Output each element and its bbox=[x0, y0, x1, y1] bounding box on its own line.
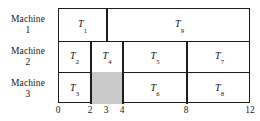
task-label-T3: T3 bbox=[70, 83, 79, 93]
task-label-T4: T4 bbox=[103, 51, 112, 61]
task-bar-T6: T6 bbox=[123, 72, 187, 104]
x-tick-label: 0 bbox=[56, 105, 61, 115]
task-bar-T9: T9 bbox=[107, 9, 251, 41]
task-bar-T7: T7 bbox=[187, 41, 251, 73]
task-label-T6: T6 bbox=[151, 83, 160, 93]
x-tick-label: 4 bbox=[120, 105, 125, 115]
x-tick-label: 3 bbox=[104, 105, 109, 115]
x-axis: 0234812 bbox=[58, 103, 250, 121]
machine-row-label-1: Machine 1 bbox=[0, 14, 56, 35]
task-bar-T1: T1 bbox=[59, 9, 107, 41]
machine-label-number-2: 2 bbox=[0, 57, 56, 68]
task-label-T2: T2 bbox=[70, 51, 79, 61]
task-bar-T3: T3 bbox=[59, 72, 91, 104]
task-label-T1: T1 bbox=[78, 19, 87, 29]
task-bar-T2: T2 bbox=[59, 41, 91, 73]
machine-label-number-3: 3 bbox=[0, 89, 56, 100]
gantt-chart: Machine 1 Machine 2 Machine 3 T1T9T2T4T5… bbox=[0, 0, 260, 121]
task-bar-T8: T8 bbox=[187, 72, 251, 104]
machine-label-word-1: Machine bbox=[0, 14, 56, 25]
task-label-T7: T7 bbox=[215, 51, 224, 61]
x-tick-label: 2 bbox=[88, 105, 93, 115]
machine-row-label-2: Machine 2 bbox=[0, 46, 56, 67]
x-tick-label: 12 bbox=[245, 105, 255, 115]
idle-block bbox=[91, 72, 123, 104]
machine-row-label-3: Machine 3 bbox=[0, 78, 56, 99]
task-bar-T5: T5 bbox=[123, 41, 187, 73]
x-tick-label: 8 bbox=[184, 105, 189, 115]
machine-label-word-3: Machine bbox=[0, 78, 56, 89]
machine-label-word-2: Machine bbox=[0, 46, 56, 57]
task-bar-T4: T4 bbox=[91, 41, 123, 73]
gantt-plot-area: T1T9T2T4T5T7T3T6T8 bbox=[58, 8, 250, 103]
machine-label-number-1: 1 bbox=[0, 25, 56, 36]
task-label-T8: T8 bbox=[215, 83, 224, 93]
task-label-T5: T5 bbox=[151, 51, 160, 61]
task-label-T9: T9 bbox=[175, 19, 184, 29]
